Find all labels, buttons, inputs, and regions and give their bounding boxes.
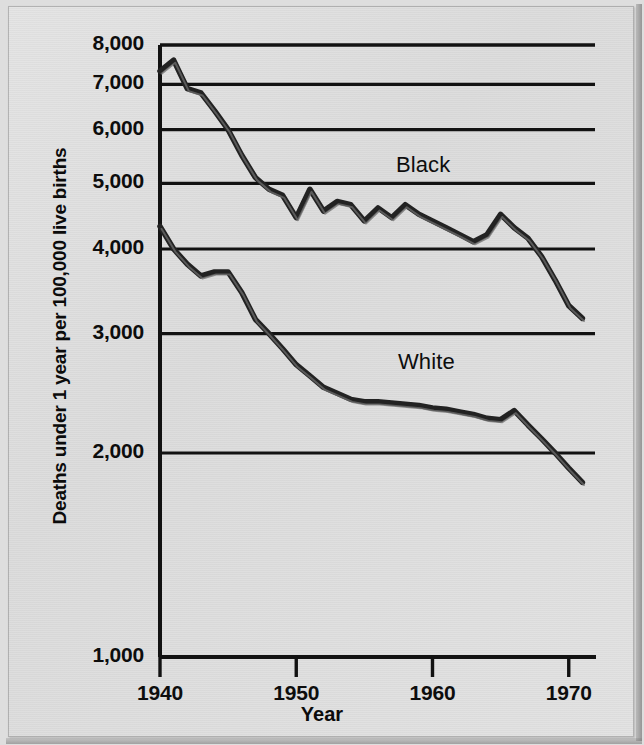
series-label-white: White: [398, 349, 455, 375]
x-tick-label: 1940: [115, 681, 205, 705]
series-line-black-highlight: [162, 63, 584, 321]
y-tick-label: 7,000: [48, 70, 144, 94]
x-axis-title: Year: [0, 703, 644, 726]
y-tick-label: 8,000: [48, 31, 144, 55]
infant-mortality-figure: 8,0007,0006,0005,0004,0003,0002,0001,000…: [0, 0, 644, 745]
x-tick-label: 1960: [388, 681, 478, 705]
line-chart-plot: [0, 0, 644, 745]
x-tick-label: 1970: [524, 681, 614, 705]
x-tick-group: [160, 657, 569, 677]
series-line-black: [160, 60, 582, 318]
y-tick-label: 1,000: [48, 643, 144, 667]
x-tick-label: 1950: [251, 681, 341, 705]
y-axis-title: Deaths under 1 year per 100,000 live bir…: [49, 126, 71, 546]
gridline-group: [160, 45, 595, 657]
series-line-white-highlight: [162, 229, 584, 485]
series-label-black: Black: [396, 152, 450, 178]
series-line-white: [160, 226, 582, 482]
